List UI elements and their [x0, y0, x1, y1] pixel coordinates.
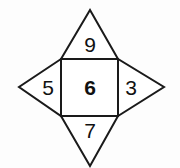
top-triangle-number: 9: [78, 34, 102, 55]
left-triangle-number: 5: [36, 77, 60, 98]
right-triangle-number: 3: [119, 77, 143, 98]
star-number-figure: 9 5 6 3 7: [0, 0, 180, 168]
center-square-number: 6: [78, 77, 102, 98]
bottom-triangle-number: 7: [78, 120, 102, 141]
